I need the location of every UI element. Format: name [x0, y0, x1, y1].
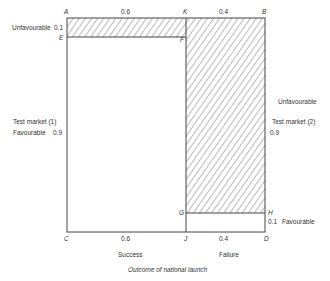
left-unfavourable-prob: 0.1	[54, 24, 63, 32]
left-favourable-prob: 0.9	[53, 129, 62, 137]
right-unfavourable-label: Unfavourable	[278, 98, 317, 106]
probability-area-diagram	[0, 0, 330, 281]
point-f-label: F	[180, 36, 184, 44]
right-favourable-label: Favourable	[282, 218, 315, 226]
point-h-label: H	[268, 209, 273, 217]
point-c-label: C	[64, 235, 69, 243]
top-right-prob: 0.4	[219, 8, 228, 16]
bottom-left-prob: 0.6	[121, 235, 130, 243]
point-k-label: K	[183, 8, 187, 16]
left-test-market-title: Test market (1)	[13, 118, 56, 126]
point-g-label: G	[179, 209, 184, 217]
left-unfavourable-label: Unfavourable	[12, 24, 51, 32]
hatched-region-left-unfavourable	[67, 18, 186, 37]
caption: Outcome of national launch	[128, 266, 207, 274]
point-j-label: J	[184, 235, 187, 243]
success-label: Success	[118, 251, 143, 259]
bottom-right-prob: 0.4	[219, 235, 228, 243]
right-test-market-title: Test market (2)	[272, 118, 315, 126]
right-favourable-prob: 0.1	[268, 218, 277, 226]
failure-label: Failure	[219, 251, 239, 259]
right-unfavourable-prob: 0.9	[270, 129, 279, 137]
point-a-label: A	[64, 8, 68, 16]
hatched-region-right-unfavourable	[186, 18, 265, 213]
point-d-label: D	[264, 235, 269, 243]
point-e-label: E	[59, 34, 63, 42]
left-favourable-label: Favourable	[13, 129, 46, 137]
top-left-prob: 0.6	[121, 8, 130, 16]
point-b-label: B	[262, 8, 266, 16]
